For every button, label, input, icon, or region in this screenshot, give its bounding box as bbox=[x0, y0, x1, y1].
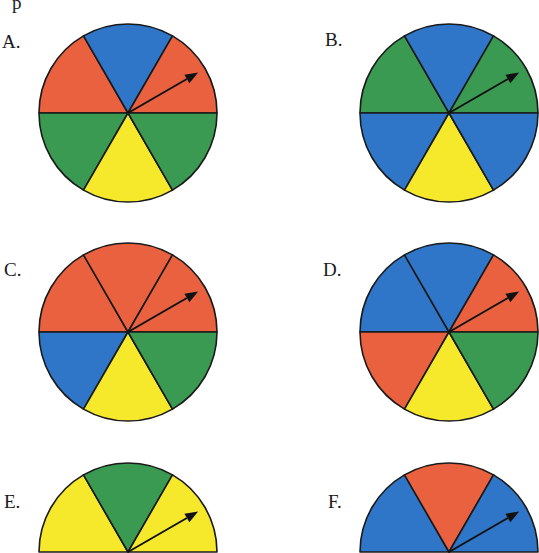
spinner-e bbox=[39, 463, 217, 552]
spinner-d bbox=[360, 243, 538, 421]
spinner-c bbox=[39, 243, 217, 421]
spinner-a bbox=[39, 24, 217, 202]
spinner-diagram bbox=[0, 0, 539, 553]
spinner-f bbox=[360, 463, 538, 552]
spinner-b bbox=[360, 24, 538, 202]
